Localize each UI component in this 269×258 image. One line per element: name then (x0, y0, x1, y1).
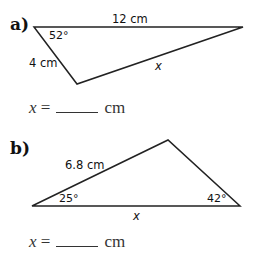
angle-label-52: 52° (49, 29, 69, 42)
answer-unit: cm (104, 232, 125, 251)
side-label-4cm: 4 cm (29, 56, 58, 70)
side-label-12cm: 12 cm (112, 12, 148, 26)
side-label-x: x (155, 59, 162, 73)
part-a-label: a) (10, 14, 29, 34)
answer-blank-b[interactable] (56, 245, 98, 247)
answer-line-a: x =cm (29, 98, 125, 118)
angle-label-42: 42° (207, 192, 227, 205)
angle-label-25: 25° (59, 192, 79, 205)
answer-variable: x (29, 232, 37, 251)
equals-sign: = (41, 98, 51, 117)
part-b-label: b) (10, 138, 30, 158)
side-label-x: x (133, 209, 140, 223)
answer-unit: cm (104, 98, 125, 117)
answer-line-b: x =cm (29, 232, 125, 252)
answer-blank-a[interactable] (56, 111, 98, 113)
answer-variable: x (29, 98, 37, 117)
side-label-6-8cm: 6.8 cm (65, 158, 104, 172)
equals-sign: = (41, 232, 51, 251)
